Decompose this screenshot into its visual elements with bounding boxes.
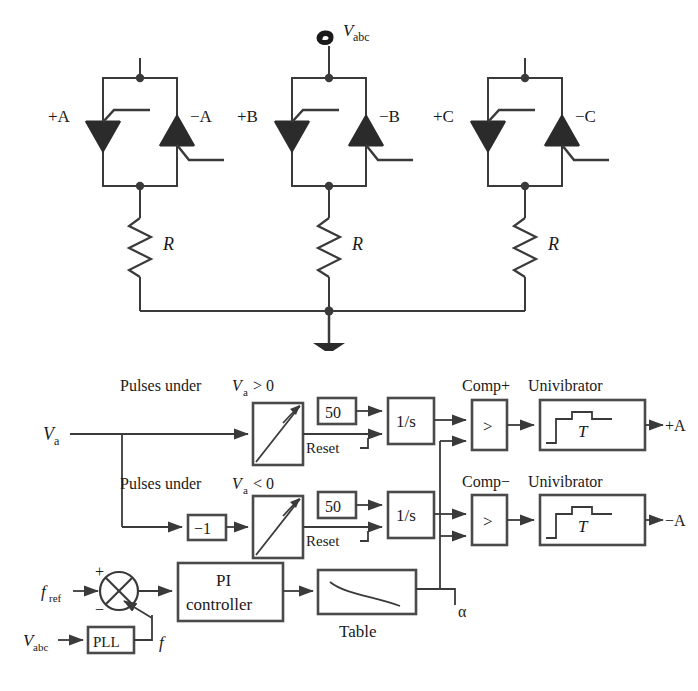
ramp-generator-positive[interactable]	[253, 403, 303, 465]
phase-b-label-negative: −B	[379, 107, 400, 126]
gain-value-positive: 50	[325, 404, 341, 421]
caption-positive-prefix: Pulses under	[120, 377, 205, 394]
caption-positive-sub: a	[243, 386, 248, 398]
pll-block[interactable]: PLL	[88, 627, 134, 653]
univibrator-negative[interactable]: T	[540, 495, 645, 545]
summing-junction[interactable]	[100, 572, 138, 610]
phase-c-label-negative: −C	[575, 107, 596, 126]
comparator-title-negative: Comp−	[462, 473, 510, 491]
pll-input-sub: abc	[33, 641, 48, 653]
gain-value-negative: 50	[325, 498, 341, 515]
figure-canvas: V abc +A −A R	[0, 0, 698, 691]
source-label-sub: abc	[353, 30, 370, 44]
phase-b-resistor-label: R	[351, 234, 363, 254]
ramp-generator-negative[interactable]	[253, 496, 303, 558]
sum-plus-sign: +	[95, 563, 104, 580]
comparator-positive[interactable]: >	[472, 400, 507, 450]
comparator-symbol-negative: >	[483, 512, 493, 531]
output-label-positive: +A	[665, 417, 686, 434]
comparator-symbol-positive: >	[483, 417, 493, 436]
integrator-positive[interactable]: 1/s	[388, 398, 434, 444]
phase-c-label-positive: +C	[433, 107, 454, 126]
pll-block-label: PLL	[93, 634, 120, 650]
pi-controller-line1: PI	[216, 571, 231, 590]
phase-b-label-positive: +B	[237, 107, 258, 126]
univibrator-title-negative: Univibrator	[528, 473, 603, 490]
comparator-title-positive: Comp+	[462, 377, 510, 395]
reset-label-negative: Reset	[306, 533, 340, 549]
integrator-label-positive: 1/s	[396, 412, 416, 431]
gain-block-negative[interactable]: 50	[318, 492, 356, 518]
gain-block-positive[interactable]: 50	[318, 398, 356, 424]
inverter-gain-block[interactable]: −1	[188, 515, 226, 540]
pi-controller-block[interactable]: PI controller	[178, 563, 283, 621]
fref-sub: ref	[49, 592, 62, 604]
caption-positive-suffix: > 0	[249, 377, 274, 394]
integrator-label-negative: 1/s	[396, 506, 416, 525]
inverter-gain-value: −1	[194, 520, 211, 537]
integrator-negative[interactable]: 1/s	[388, 492, 434, 538]
univibrator-label-negative: T	[578, 517, 589, 536]
univibrator-positive[interactable]: T	[540, 400, 645, 450]
phase-a-label-negative: −A	[190, 107, 213, 126]
caption-negative-suffix: < 0	[249, 475, 274, 492]
caption-negative-sub: a	[243, 484, 248, 496]
table-label: Table	[339, 622, 377, 641]
univibrator-title-positive: Univibrator	[528, 377, 603, 394]
comparator-negative[interactable]: >	[472, 495, 507, 545]
table-block[interactable]	[318, 570, 416, 614]
caption-negative-prefix: Pulses under	[120, 475, 205, 492]
pi-controller-line2: controller	[186, 595, 252, 614]
alpha-label: α	[458, 603, 467, 620]
phase-a-resistor-label: R	[162, 234, 174, 254]
phase-a-label-positive: +A	[48, 107, 71, 126]
output-label-negative: −A	[665, 512, 686, 529]
univibrator-label-positive: T	[578, 422, 589, 441]
phase-c-resistor-label: R	[547, 234, 559, 254]
sum-minus-sign: −	[95, 601, 104, 618]
reset-label-positive: Reset	[306, 440, 340, 456]
input-label-Va-sub: a	[54, 434, 60, 448]
